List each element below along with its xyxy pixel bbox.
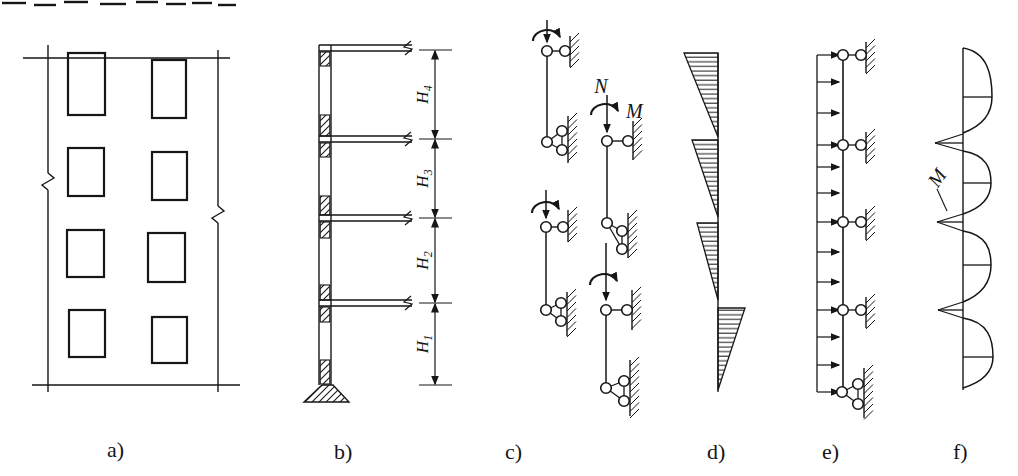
panel-a-wall-elevation-drawing: [23, 45, 240, 392]
panel-label-b: b): [334, 439, 352, 464]
panel-d-triangular-moment-diagram: [684, 53, 745, 392]
panel-letter-labels: a) b) c) d) e) f): [107, 437, 968, 464]
structural-analysis-figure: H4H3H2H1 a) b) c) d) e) f) N M M: [0, 0, 1018, 476]
moment-label-M-panel-f: M: [922, 163, 951, 191]
story-height-label: H2: [413, 251, 435, 270]
panel-label-d: d): [707, 439, 725, 464]
story-height-label: H3: [413, 169, 435, 188]
story-height-label: H4: [413, 85, 435, 104]
axial-force-label-N: N: [593, 75, 609, 97]
panel-label-c: c): [505, 439, 522, 464]
panel-c-hinged-column-computing-models: [532, 20, 642, 418]
story-height-label: H1: [413, 335, 435, 354]
panel-e-continuous-member-distributed-load: [817, 39, 875, 420]
panel-label-a: a): [107, 437, 124, 462]
scanned-textbook-figure: H4H3H2H1 a) b) c) d) e) f) N M M: [0, 0, 1018, 476]
panel-label-e: e): [822, 439, 839, 464]
moment-label-M-panel-c: M: [625, 100, 644, 122]
panel-f-parabolic-moment-diagram: [935, 48, 993, 390]
cropped-caption-fragments: [2, 2, 236, 5]
panel-b-wall-section-with-story-heights: H4H3H2H1: [304, 41, 452, 402]
panel-label-f: f): [953, 439, 968, 464]
